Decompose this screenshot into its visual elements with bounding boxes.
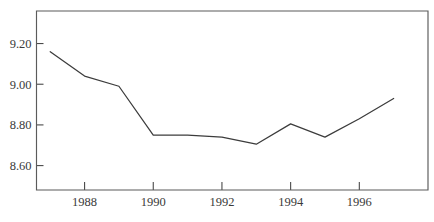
x-tick-label: 1988	[72, 195, 97, 209]
y-tick-label: 9.20	[10, 37, 32, 51]
line-chart: 8.608.809.009.20 19881990199219941996	[0, 0, 434, 222]
y-tick-label: 9.00	[10, 78, 32, 92]
y-tick-label: 8.80	[10, 118, 32, 132]
chart-background	[0, 0, 434, 222]
x-tick-label: 1992	[209, 195, 234, 209]
x-tick-label: 1994	[278, 195, 304, 209]
chart-canvas: 8.608.809.009.20 19881990199219941996	[0, 0, 434, 222]
x-tick-label: 1990	[141, 195, 166, 209]
y-tick-label: 8.60	[10, 159, 32, 173]
x-tick-label: 1996	[347, 195, 372, 209]
